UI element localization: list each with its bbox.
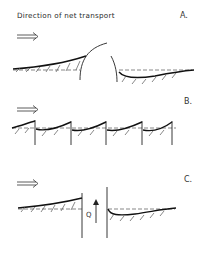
flow-arrow-icon <box>93 199 99 223</box>
transport-arrow-icon <box>17 106 38 114</box>
transport-arrow-icon <box>17 33 38 41</box>
transport-arrow-icon <box>17 180 38 188</box>
panel-a <box>13 33 194 85</box>
panel-c <box>17 180 176 239</box>
flow-label: Q <box>86 211 92 219</box>
coastal-diagram <box>0 0 205 254</box>
panel-b <box>12 106 176 146</box>
